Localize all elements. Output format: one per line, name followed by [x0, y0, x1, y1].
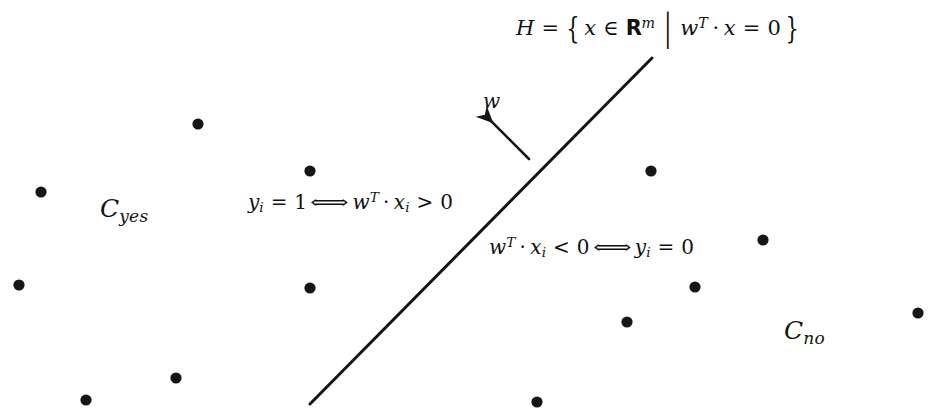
- data-point-no: [621, 316, 632, 327]
- symbol-H: H: [516, 16, 534, 40]
- symbol-dot-product: ·: [520, 235, 526, 259]
- hyperplane-line: [310, 58, 652, 404]
- figure-canvas: H={x∈Rm|wT·x=0} w yi=1⟺wT·xi>0 wT·xi<0⟺y…: [0, 0, 939, 420]
- symbol-equals-2: =: [743, 16, 761, 40]
- symbol-x: x: [394, 190, 405, 214]
- subscript-i: i: [259, 199, 264, 215]
- hyperplane-equation-label: H={x∈Rm|wT·x=0}: [516, 16, 799, 39]
- symbol-real-numbers: R: [626, 16, 642, 40]
- data-point-yes: [35, 186, 46, 197]
- data-point-yes: [13, 279, 24, 290]
- symbol-equals: =: [271, 190, 288, 214]
- data-point-no: [912, 307, 923, 318]
- subscript-yes: yes: [119, 206, 148, 226]
- symbol-w-normal: w: [483, 89, 500, 113]
- data-points-class-no: [531, 165, 923, 407]
- symbol-w: w: [680, 16, 698, 40]
- brace-close: }: [785, 13, 798, 43]
- symbol-C: C: [784, 316, 803, 345]
- data-point-yes: [304, 165, 315, 176]
- symbol-equals: =: [658, 235, 675, 259]
- symbol-x: x: [530, 235, 541, 259]
- symbol-greater-than: >: [417, 190, 434, 214]
- symbol-y: y: [248, 190, 259, 214]
- symbol-w: w: [353, 190, 370, 214]
- exponent-transpose: T: [506, 234, 515, 250]
- normal-vector-arrow: [491, 121, 529, 159]
- data-point-no: [531, 396, 542, 407]
- data-points-class-yes: [13, 118, 315, 405]
- symbol-less-than: <: [553, 235, 570, 259]
- class-yes-label: Cyes: [100, 196, 148, 225]
- symbol-dot-product: ·: [712, 16, 719, 40]
- set-builder-bar: |: [662, 10, 673, 47]
- data-point-yes: [170, 372, 181, 383]
- symbol-zero: 0: [440, 190, 453, 214]
- exponent-transpose: T: [698, 15, 708, 31]
- data-point-yes: [304, 282, 315, 293]
- classification-rule-yes-label: yi=1⟺wT·xi>0: [248, 191, 453, 215]
- data-point-no: [645, 165, 656, 176]
- symbol-w: w: [489, 235, 506, 259]
- symbol-iff: ⟺: [305, 192, 355, 212]
- symbol-equals: =: [541, 16, 559, 40]
- brace-open: {: [566, 13, 579, 43]
- symbol-C: C: [100, 194, 119, 223]
- symbol-element-of: ∈: [603, 16, 619, 40]
- classification-rule-no-label: wT·xi<0⟺yi=0: [489, 236, 694, 260]
- normal-vector-label: w: [483, 91, 500, 111]
- subscript-i-2: i: [646, 244, 651, 260]
- symbol-zero-2: 0: [681, 235, 694, 259]
- symbol-x: x: [584, 16, 596, 40]
- data-point-yes: [80, 394, 91, 405]
- symbol-dot-product: ·: [383, 190, 389, 214]
- data-point-yes: [192, 118, 203, 129]
- data-point-no: [757, 234, 768, 245]
- data-point-no: [689, 281, 700, 292]
- symbol-zero: 0: [767, 16, 780, 40]
- exponent-m: m: [641, 15, 655, 31]
- subscript-i: i: [542, 244, 547, 260]
- subscript-i-2: i: [405, 199, 410, 215]
- exponent-transpose: T: [370, 189, 379, 205]
- symbol-x-2: x: [724, 16, 736, 40]
- class-no-label: Cno: [784, 318, 825, 347]
- subscript-no: no: [803, 328, 825, 348]
- symbol-iff: ⟺: [587, 237, 637, 257]
